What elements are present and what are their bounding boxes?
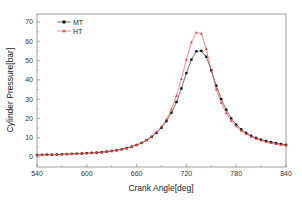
y-axis-title: Cylinder Pressure[bar] [5,48,15,133]
data-point [190,58,192,60]
y-tick-label: 40 [25,76,33,83]
data-point [185,72,187,74]
x-tick-label: 840 [280,170,292,177]
y-tick-label: 50 [25,57,33,64]
y-tick-label: 0 [29,153,33,160]
x-tick-label: 600 [81,170,93,177]
y-tick-label: 20 [25,115,33,122]
x-tick-label: 780 [230,170,242,177]
x-tick-label: 660 [131,170,143,177]
data-point [205,56,207,58]
square-marker-icon [63,21,66,24]
legend-label-ht: HT [73,28,83,35]
data-point [170,111,172,113]
y-tick-label: 70 [25,18,33,25]
x-tick-label: 540 [31,170,43,177]
data-point [175,101,177,103]
cylinder-pressure-chart: 540600660720780840 010203040506070 Crank… [0,0,302,201]
y-tick-label: 10 [25,134,33,141]
data-point [180,87,182,89]
legend-label-mt: MT [73,19,84,26]
x-axis-title: Crank Angle[deg] [128,183,193,193]
data-point [225,109,227,111]
y-tick-label: 60 [25,38,33,45]
plot-frame [37,14,286,167]
y-tick-label: 30 [25,96,33,103]
data-point [200,50,202,52]
x-tick-label: 720 [181,170,193,177]
data-point [195,50,197,52]
